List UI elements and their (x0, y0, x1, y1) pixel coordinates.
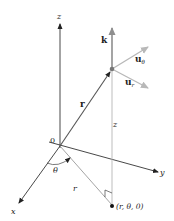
x-axis-label: x (11, 207, 16, 216)
r-vector-label: r (80, 99, 85, 109)
u-r-label: ur (125, 77, 135, 88)
origin-label: 0 (50, 136, 55, 145)
u-theta-label: uθ (135, 54, 146, 65)
z-axis-label: z (56, 12, 62, 21)
right-angle-mark (105, 190, 112, 197)
point-p (110, 67, 115, 72)
z-height-label: z (112, 120, 118, 129)
foot-point-label: (r, θ, 0) (116, 202, 144, 211)
y-axis (49, 142, 158, 172)
r-vector (60, 72, 110, 146)
cylindrical-coordinates-diagram: z x y 0 k uθ ur r z θ r (r, θ, 0) (0, 0, 174, 221)
theta-label: θ (53, 166, 58, 175)
r-projection-label: r (73, 184, 78, 193)
foot-point (110, 204, 114, 208)
k-vector-label: k (101, 35, 108, 45)
u-theta-vector (112, 47, 148, 69)
projection-line (60, 146, 112, 205)
y-axis-label: y (159, 168, 165, 177)
